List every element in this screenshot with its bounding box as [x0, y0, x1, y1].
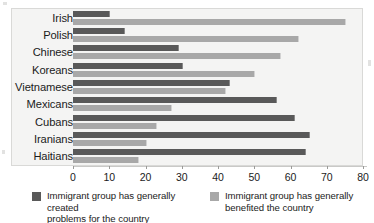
bar-pair [73, 113, 363, 130]
chart-legend: Immigrant group has generally created pr… [0, 190, 374, 223]
bar-chinese-problems [73, 45, 179, 51]
x-tick-label-80: 80 [357, 171, 369, 183]
bar-pair [73, 44, 363, 61]
x-tick [73, 166, 74, 169]
x-tick-label-40: 40 [212, 171, 224, 183]
x-tick-label-50: 50 [248, 171, 260, 183]
x-tick-label-60: 60 [285, 171, 297, 183]
bar-irish-problems [73, 11, 110, 17]
bar-chinese-benefited [73, 53, 281, 59]
bar-row: Chinese [11, 44, 363, 61]
x-tick [146, 166, 147, 169]
category-label-cubans: Cubans [35, 116, 73, 128]
bar-polish-benefited [73, 36, 299, 42]
category-label-iranians: Iranians [34, 133, 73, 145]
x-axis: 01020304050607080 [73, 166, 367, 188]
scan-speck [2, 150, 5, 154]
legend-label-line2: problems for the country [47, 213, 149, 223]
category-label-koreans: Koreans [32, 64, 73, 76]
bar-pair [73, 9, 363, 26]
bar-row: Irish [11, 9, 363, 26]
bar-row: Polish [11, 26, 363, 43]
chart-page: IrishPolishChineseKoreansVietnameseMexic… [0, 0, 374, 223]
bar-cubans-benefited [73, 123, 157, 129]
bar-vietnamese-problems [73, 80, 230, 86]
x-tick-label-0: 0 [70, 171, 76, 183]
x-tick-label-10: 10 [103, 171, 115, 183]
scan-speck [368, 60, 371, 66]
legend-label-benefited: Immigrant group has generally benefited … [225, 190, 353, 213]
x-tick [218, 166, 219, 169]
category-label-haitians: Haitians [33, 150, 73, 162]
x-tick-label-30: 30 [176, 171, 188, 183]
bar-pair [73, 148, 363, 165]
bar-rows: IrishPolishChineseKoreansVietnameseMexic… [11, 9, 363, 165]
legend-item-benefited: Immigrant group has generally benefited … [210, 190, 370, 213]
bar-vietnamese-benefited [73, 88, 226, 94]
bar-pair [73, 96, 363, 113]
legend-label-created-problems: Immigrant group has generally created pr… [47, 190, 207, 223]
legend-swatch-dark [32, 192, 41, 201]
bar-pair [73, 61, 363, 78]
category-label-chinese: Chinese [33, 46, 73, 58]
x-tick [254, 166, 255, 169]
bar-row: Koreans [11, 61, 363, 78]
category-label-polish: Polish [43, 29, 73, 41]
category-label-vietnamese: Vietnamese [15, 81, 73, 93]
legend-label-line1: Immigrant group has generally [225, 190, 353, 201]
legend-label-line2: benefited the country [225, 202, 314, 213]
x-tick [182, 166, 183, 169]
x-tick [363, 166, 364, 169]
bar-cubans-problems [73, 115, 295, 121]
bar-pair [73, 78, 363, 95]
legend-label-line1: Immigrant group has generally created [47, 190, 175, 213]
bar-mexicans-problems [73, 97, 277, 103]
bar-irish-benefited [73, 19, 346, 25]
bar-koreans-problems [73, 63, 183, 69]
bar-row: Vietnamese [11, 78, 363, 95]
category-label-mexicans: Mexicans [27, 98, 73, 110]
bar-iranians-problems [73, 132, 310, 138]
x-axis-line [73, 166, 367, 167]
bar-pair [73, 26, 363, 43]
bar-haitians-benefited [73, 157, 139, 163]
bar-iranians-benefited [73, 140, 147, 146]
legend-swatch-light [210, 192, 219, 201]
bar-pair [73, 130, 363, 147]
bar-polish-problems [73, 28, 125, 34]
scan-speck [3, 2, 7, 5]
legend-item-created-problems: Immigrant group has generally created pr… [32, 190, 207, 223]
x-tick [291, 166, 292, 169]
x-tick [327, 166, 328, 169]
x-tick [109, 166, 110, 169]
bar-row: Mexicans [11, 96, 363, 113]
bar-row: Haitians [11, 148, 363, 165]
category-label-irish: Irish [52, 12, 73, 24]
bar-row: Iranians [11, 130, 363, 147]
x-tick-label-70: 70 [321, 171, 333, 183]
bar-haitians-problems [73, 149, 306, 155]
bar-koreans-benefited [73, 71, 255, 77]
bar-row: Cubans [11, 113, 363, 130]
x-tick-label-20: 20 [140, 171, 152, 183]
bar-mexicans-benefited [73, 105, 172, 111]
